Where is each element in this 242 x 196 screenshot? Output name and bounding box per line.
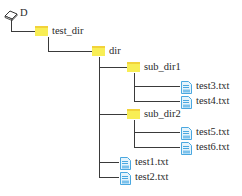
connector-line xyxy=(99,177,119,178)
folder-icon xyxy=(127,62,140,72)
connector-line xyxy=(134,147,180,148)
text-file-icon xyxy=(181,95,192,108)
tree-node-label: sub_dir2 xyxy=(144,108,181,120)
tree-node-test3[interactable]: test3.txt xyxy=(181,79,230,93)
tree-node-label: test6.txt xyxy=(196,141,230,153)
connector-line xyxy=(11,31,35,32)
folder-icon xyxy=(127,109,140,119)
connector-line xyxy=(134,101,180,102)
text-file-icon xyxy=(120,156,131,169)
tree-node-root[interactable]: D xyxy=(4,6,28,20)
connector-line xyxy=(99,114,127,115)
tree-node-test4[interactable]: test4.txt xyxy=(181,94,230,108)
folder-icon xyxy=(35,26,48,36)
tree-node-label: test1.txt xyxy=(135,156,169,168)
tree-node-test-dir[interactable]: test_dir xyxy=(35,24,84,38)
tree-node-test1[interactable]: test1.txt xyxy=(120,155,169,169)
connector-line xyxy=(134,132,180,133)
tree-node-label: dir xyxy=(109,45,121,57)
tree-node-label: test_dir xyxy=(52,25,84,37)
tree-node-dir[interactable]: dir xyxy=(92,44,121,58)
text-file-icon xyxy=(181,126,192,139)
tree-node-test2[interactable]: test2.txt xyxy=(120,170,169,184)
connector-line xyxy=(99,67,127,68)
connector-line xyxy=(48,51,92,52)
connector-line xyxy=(134,86,180,87)
tree-node-test5[interactable]: test5.txt xyxy=(181,125,230,139)
text-file-icon xyxy=(181,80,192,93)
tree-node-label: test4.txt xyxy=(196,95,230,107)
connector-line xyxy=(134,120,135,148)
connector-line xyxy=(134,73,135,101)
connector-line xyxy=(99,57,100,177)
text-file-icon xyxy=(120,171,131,184)
tree-node-label: sub_dir1 xyxy=(144,61,181,73)
tree-node-label: test2.txt xyxy=(135,171,169,183)
tree-node-sub-dir2[interactable]: sub_dir2 xyxy=(127,107,181,121)
tree-node-label: test3.txt xyxy=(196,80,230,92)
tree-node-sub-dir1[interactable]: sub_dir1 xyxy=(127,60,181,74)
text-file-icon xyxy=(181,141,192,154)
connector-line xyxy=(11,20,12,31)
folder-icon xyxy=(92,46,105,56)
tree-node-test6[interactable]: test6.txt xyxy=(181,140,230,154)
connector-line xyxy=(99,162,119,163)
tree-node-label: test5.txt xyxy=(196,126,230,138)
connector-line xyxy=(48,37,49,51)
tree-node-label: D xyxy=(20,7,28,19)
drive-icon xyxy=(4,7,18,19)
